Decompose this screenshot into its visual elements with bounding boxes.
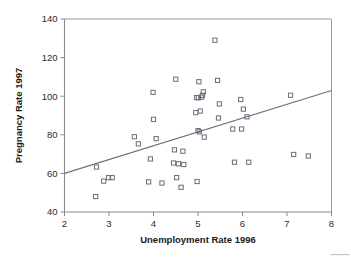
data-point bbox=[216, 116, 220, 120]
y-tick-label: 100 bbox=[42, 91, 58, 102]
y-tick-label: 40 bbox=[47, 206, 58, 217]
data-point bbox=[182, 162, 186, 166]
trend-line bbox=[65, 90, 332, 173]
data-point bbox=[232, 160, 236, 164]
data-point bbox=[132, 135, 136, 139]
data-point bbox=[175, 176, 179, 180]
x-tick-label: 5 bbox=[195, 218, 200, 229]
data-point bbox=[94, 194, 98, 198]
y-tick-label: 120 bbox=[42, 52, 58, 63]
data-point bbox=[160, 181, 164, 185]
y-tick-label: 140 bbox=[42, 13, 58, 24]
data-point bbox=[151, 117, 155, 121]
x-tick-label: 7 bbox=[284, 218, 289, 229]
data-point bbox=[240, 127, 244, 131]
data-point bbox=[241, 107, 245, 111]
y-tick-label: 80 bbox=[47, 129, 58, 140]
y-axis-title: Pregnancy Rate 1997 bbox=[13, 68, 24, 164]
data-point bbox=[292, 152, 296, 156]
data-point bbox=[213, 38, 217, 42]
data-point bbox=[174, 77, 178, 81]
data-point bbox=[288, 93, 292, 97]
x-axis-title: Unemployment Rate 1996 bbox=[140, 234, 256, 245]
data-point bbox=[239, 97, 243, 101]
data-point bbox=[306, 154, 310, 158]
data-point bbox=[172, 148, 176, 152]
data-point bbox=[197, 80, 201, 84]
data-point bbox=[231, 127, 235, 131]
data-point bbox=[171, 161, 175, 165]
data-point bbox=[198, 109, 202, 113]
data-point bbox=[102, 179, 106, 183]
chart-figure: 4060801001201402345678Unemployment Rate … bbox=[0, 0, 351, 262]
y-tick-label: 60 bbox=[47, 168, 58, 179]
data-point bbox=[179, 185, 183, 189]
data-point bbox=[217, 102, 221, 106]
scan-artifact bbox=[330, 254, 350, 255]
x-tick-label: 6 bbox=[240, 218, 245, 229]
data-point bbox=[154, 137, 158, 141]
x-tick-label: 4 bbox=[151, 218, 156, 229]
data-point bbox=[247, 160, 251, 164]
data-point bbox=[176, 162, 180, 166]
data-point bbox=[215, 78, 219, 82]
data-point bbox=[147, 180, 151, 184]
data-point bbox=[202, 135, 206, 139]
data-point bbox=[151, 90, 155, 94]
data-point bbox=[136, 142, 140, 146]
scatter-plot: 4060801001201402345678Unemployment Rate … bbox=[0, 0, 351, 262]
data-point bbox=[181, 149, 185, 153]
data-point bbox=[148, 157, 152, 161]
data-point bbox=[94, 165, 98, 169]
data-point bbox=[194, 111, 198, 115]
data-point bbox=[195, 179, 199, 183]
x-tick-label: 3 bbox=[106, 218, 111, 229]
x-tick-label: 2 bbox=[62, 218, 67, 229]
x-tick-label: 8 bbox=[329, 218, 334, 229]
